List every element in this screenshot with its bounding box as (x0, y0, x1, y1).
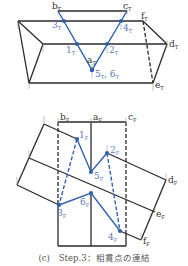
label-fF: fF (143, 236, 150, 247)
diagram-canvas: bT cT fT dT eT aT 3T 4T 1T 2T 5T, 6T (0, 0, 188, 266)
label-5F: 5F (94, 171, 104, 182)
point-3F (57, 203, 61, 207)
band-top-right (107, 153, 166, 180)
label-2F: 2F (110, 145, 120, 156)
point-2F (105, 151, 109, 155)
point-1T (75, 42, 79, 46)
label-bT: bT (52, 1, 62, 12)
point-3T (62, 19, 66, 23)
label-bF: bF (60, 112, 70, 123)
label-eT: eT (155, 80, 164, 91)
point-6F (89, 191, 93, 195)
right-wedge-de (153, 44, 167, 83)
band-bottom-right (120, 231, 141, 240)
label-aT: aT (87, 55, 96, 66)
label-aF: aF (93, 112, 102, 123)
band-top-left (44, 124, 77, 139)
point-4F (118, 229, 122, 233)
path-1-5-2 (77, 139, 107, 172)
left-wedge-2 (29, 44, 43, 83)
label-1T: 1T (66, 45, 76, 56)
band-right-end (141, 180, 166, 240)
label-4F: 4F (108, 232, 118, 243)
label-dF: dF (168, 175, 178, 186)
figure-caption: (c) Step.3：相貫点の連結 (0, 251, 188, 263)
point-5F (89, 170, 93, 174)
path-3-6-4 (59, 193, 120, 231)
label-eF: eF (156, 209, 165, 220)
label-cT: cT (123, 1, 132, 12)
right-wedge-fe-hidden (143, 21, 153, 83)
label-1F: 1F (79, 130, 89, 141)
point-5T-6T (90, 68, 95, 73)
label-fT: fT (141, 11, 148, 22)
label-3F: 3F (57, 208, 67, 219)
label-dT: dT (169, 39, 179, 50)
label-cF: cF (128, 112, 137, 123)
band-left-end (17, 124, 44, 185)
label-4T: 4T (123, 23, 133, 34)
bottom-diagram (17, 122, 166, 246)
label-5T-6T: 5T, 6T (95, 69, 120, 80)
label-6F: 6F (80, 197, 90, 208)
label-2T: 2T (109, 45, 119, 56)
band-bottom-left (17, 185, 59, 205)
